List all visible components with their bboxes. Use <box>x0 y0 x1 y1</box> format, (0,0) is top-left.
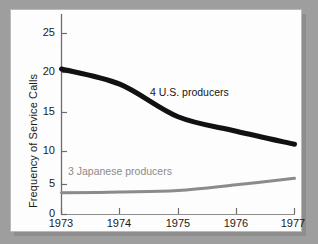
chart-screenshot: Frequency of Service Calls 0 5 10 15 20 … <box>0 0 318 244</box>
chart-plot-area <box>11 10 303 233</box>
series-line-japanese-producers <box>62 178 295 192</box>
chart-panel: Frequency of Service Calls 0 5 10 15 20 … <box>10 9 302 232</box>
series-line-us-producers <box>62 69 295 144</box>
x-axis-ticks <box>62 208 295 214</box>
